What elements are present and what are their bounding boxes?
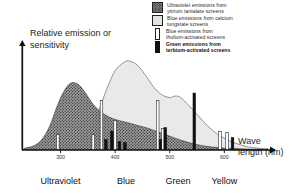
y-axis-arrow-icon (19, 40, 25, 46)
legend-swatch-light-gray-icon (152, 15, 163, 26)
emission-bar-terbium (105, 140, 108, 150)
legend-swatch-white-bar-icon (155, 28, 160, 40)
band-label-blue: Blue (117, 176, 135, 186)
emission-bar-terbium (159, 140, 162, 150)
emission-bar-thulium (92, 135, 95, 150)
band-label-yellow: Yellow (211, 176, 237, 186)
x-axis-tick-label: 600 (220, 154, 229, 160)
legend-line-2: tungstate screens (167, 21, 208, 27)
emission-bar-terbium (164, 128, 167, 150)
emission-bar-thulium (219, 132, 222, 150)
series-layer (22, 61, 268, 150)
emission-bar-thulium (114, 121, 117, 150)
legend-item-thulium-activated: Blue emissions fromthulium-activated scr… (152, 28, 291, 40)
legend-item-calcium-tungstate: Blue emissions from calciumtungstate scr… (152, 15, 291, 27)
legend-item-yttrium-tantalate: Ultraviolet emissions fromyttrium tantal… (152, 2, 291, 14)
legend-label-calcium-tungstate: Blue emissions from calciumtungstate scr… (167, 15, 233, 27)
emission-bar-terbium (193, 93, 196, 150)
x-axis-tick-label: 300 (56, 154, 65, 160)
band-label-green: Green (165, 176, 190, 186)
emission-bar-thulium (156, 100, 159, 150)
spectral-emission-chart: Ultraviolet emissions fromyttrium tantal… (0, 0, 293, 194)
x-axis-arrow-icon (270, 147, 276, 154)
legend-line-2: yttrium tantalate screens (167, 8, 224, 14)
emission-bar-thulium (56, 135, 59, 150)
legend-label-thulium-activated: Blue emissions fromthulium-activated scr… (166, 28, 225, 40)
x-axis-tick-label: 400 (111, 154, 120, 160)
plot-area (18, 40, 276, 165)
legend-label-yttrium-tantalate: Ultraviolet emissions fromyttrium tantal… (167, 2, 227, 14)
emission-bar-thulium (226, 133, 229, 150)
x-axis-tick-label: 500 (165, 154, 174, 160)
band-label-ultraviolet: Ultraviolet (41, 176, 81, 186)
emission-bar-terbium (124, 143, 127, 150)
emission-bar-terbium (231, 138, 234, 150)
legend-swatch-stipple-dark-icon (152, 2, 163, 13)
emission-bar-terbium (111, 131, 114, 150)
emission-bar-thulium (100, 100, 103, 150)
emission-bar-terbium (118, 142, 121, 150)
